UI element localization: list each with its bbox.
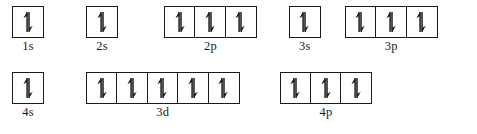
orbital-group-3s: 3s [289,6,321,53]
orbital-box[interactable] [116,72,148,104]
orbital-label-1s: 1s [22,39,34,53]
orbital-box[interactable] [340,72,372,104]
orbital-box[interactable] [310,72,342,104]
orbital-label-4p: 4p [320,105,333,119]
orbital-label-3s: 3s [299,39,311,53]
electron-pair-icon [234,11,247,33]
orbital-box-strip [289,6,321,38]
electron-pair-icon [126,77,139,99]
orbital-box[interactable] [208,72,240,104]
orbital-box[interactable] [86,72,118,104]
orbital-box-strip [12,72,44,104]
electron-pair-icon [350,77,363,99]
orbital-box[interactable] [406,6,438,38]
orbital-box[interactable] [289,6,321,38]
orbital-group-4p: 4p [280,72,373,119]
electron-pair-icon [22,77,35,99]
orbital-box[interactable] [194,6,226,38]
electron-pair-icon [96,77,109,99]
orbital-box[interactable] [280,72,312,104]
orbital-box[interactable] [345,6,377,38]
electron-pair-icon [96,11,109,33]
electron-pair-icon [415,11,428,33]
electron-pair-icon [320,77,333,99]
orbital-box[interactable] [164,6,196,38]
orbital-group-1s: 1s [12,6,44,53]
electron-pair-icon [187,77,200,99]
orbital-box[interactable] [12,6,44,38]
orbital-box[interactable] [12,72,44,104]
orbital-box-strip [86,72,240,104]
orbital-box-strip [12,6,44,38]
orbital-group-4s: 4s [12,72,44,119]
electron-pair-icon [217,77,230,99]
orbital-box[interactable] [177,72,209,104]
orbital-row: 4s3d4p [0,72,477,119]
orbital-label-2s: 2s [96,39,108,53]
electron-pair-icon [289,77,302,99]
orbital-label-3d: 3d [156,105,169,119]
electron-pair-icon [156,77,169,99]
electron-pair-icon [22,11,35,33]
orbital-box-strip [345,6,438,38]
orbital-box-strip [164,6,257,38]
orbital-box[interactable] [147,72,179,104]
electron-pair-icon [354,11,367,33]
electron-pair-icon [204,11,217,33]
electron-pair-icon [174,11,187,33]
orbital-group-3p: 3p [345,6,438,53]
orbital-box[interactable] [375,6,407,38]
orbital-box[interactable] [225,6,257,38]
orbital-diagram: 1s2s2p3s3p4s3d4p [0,0,477,134]
orbital-group-2s: 2s [86,6,118,53]
orbital-box[interactable] [86,6,118,38]
orbital-row: 1s2s2p3s3p [0,6,477,53]
orbital-label-3p: 3p [385,39,398,53]
orbital-box-strip [86,6,118,38]
orbital-label-2p: 2p [204,39,217,53]
orbital-label-4s: 4s [22,105,34,119]
orbital-group-3d: 3d [86,72,240,119]
electron-pair-icon [385,11,398,33]
electron-pair-icon [298,11,311,33]
orbital-box-strip [280,72,373,104]
orbital-group-2p: 2p [164,6,257,53]
